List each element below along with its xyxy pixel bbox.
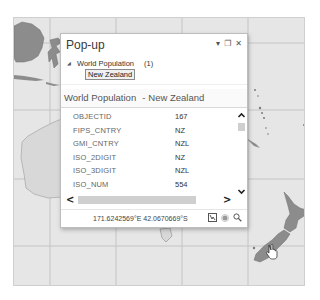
vertical-scrollbar[interactable] — [237, 110, 246, 196]
borneo-landmass — [14, 22, 44, 62]
scroll-left-icon[interactable]: < — [66, 194, 74, 205]
tree-layer-name: World Population — [77, 59, 134, 68]
attribute-value: NZL — [175, 139, 189, 148]
detail-separator: - — [142, 92, 145, 103]
flash-icon[interactable] — [221, 214, 229, 222]
attribute-value: NZ — [175, 126, 185, 135]
scroll-up-icon[interactable] — [237, 111, 246, 120]
attribute-row: ISO_2DIGIT NZ — [61, 151, 237, 165]
map-frame-icon[interactable] — [208, 213, 217, 222]
vertical-scroll-thumb[interactable] — [238, 123, 245, 131]
popup-footer: 171.6242569°E 42.0670669°S — [61, 209, 247, 228]
close-icon[interactable]: ✕ — [235, 39, 242, 49]
attribute-row: FIPS_CNTRY NZ — [61, 124, 237, 138]
popup-title: Pop-up — [66, 38, 105, 52]
detail-feature-name: New Zealand — [148, 92, 204, 103]
tree-layer-node[interactable]: ◢ World Population (1) — [67, 58, 153, 68]
attribute-name: ISO_3DIGIT — [61, 166, 175, 175]
feature-tree: ◢ World Population (1) New Zealand — [67, 58, 153, 80]
attribute-value: NZ — [175, 153, 185, 162]
attribute-name: FIPS_CNTRY — [61, 126, 175, 135]
tasmania-landmass — [160, 228, 172, 242]
attribute-name: ISO_NUM — [61, 180, 175, 189]
collapse-caret-icon[interactable]: ◢ — [67, 60, 73, 66]
horizontal-scrollbar[interactable]: < > — [64, 195, 236, 205]
attribute-name: GMI_CNTRY — [61, 139, 175, 148]
tree-layer-count: (1) — [144, 59, 153, 68]
java-islands — [14, 75, 44, 81]
attribute-row: ISO_NUM 554 — [61, 178, 237, 192]
attribute-table: OBJECTID 167 FIPS_CNTRY NZ GMI_CNTRY NZL… — [61, 110, 237, 195]
footer-tools — [208, 213, 242, 222]
attribute-value: NZL — [175, 166, 189, 175]
mouse-pointer-icon — [266, 244, 278, 260]
detail-header: World Population-New Zealand — [61, 89, 247, 108]
horizontal-scroll-thumb[interactable] — [78, 196, 196, 204]
dropdown-arrow-icon[interactable]: ▾ — [216, 39, 220, 49]
scroll-right-icon[interactable]: > — [223, 194, 231, 205]
popup-window: Pop-up ▾ ❐ ✕ ◢ World Population (1) New … — [60, 33, 248, 228]
attribute-value: 167 — [175, 112, 188, 121]
coordinates-readout: 171.6242569°E 42.0670669°S — [93, 215, 188, 222]
attribute-row: GMI_CNTRY NZL — [61, 137, 237, 151]
attribute-value: 554 — [175, 180, 188, 189]
new-zealand-north-island — [284, 192, 305, 232]
tree-feature-item[interactable]: New Zealand — [85, 69, 135, 80]
attribute-row: ISO_3DIGIT NZL — [61, 164, 237, 178]
zoom-to-icon[interactable] — [233, 213, 242, 222]
maximize-icon[interactable]: ❐ — [224, 39, 231, 49]
attribute-row: OBJECTID 167 — [61, 110, 237, 124]
detail-layer-name: World Population — [64, 92, 136, 103]
attribute-name: ISO_2DIGIT — [61, 153, 175, 162]
attribute-name: OBJECTID — [61, 112, 175, 121]
pane-splitter[interactable] — [61, 84, 247, 85]
scroll-down-icon[interactable] — [237, 187, 246, 196]
window-controls: ▾ ❐ ✕ — [216, 39, 242, 49]
